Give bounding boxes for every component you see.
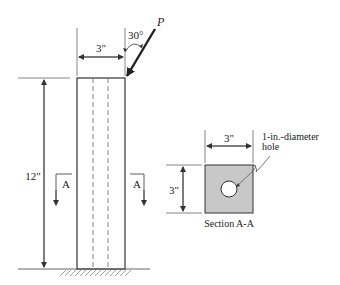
hole-label-line2: hole <box>262 141 280 152</box>
column <box>77 78 125 269</box>
angle-arc <box>125 44 142 52</box>
section-width-label: 3" <box>224 132 234 144</box>
section-a-a: 3" 3" 1-in.-diameter hole Section A-A <box>166 130 320 229</box>
column-diagram: 3" 12" A A P 30° 3" 3" <box>0 0 340 285</box>
column-width-dimension: 3" <box>77 28 125 76</box>
section-marker-right-label: A <box>133 178 141 190</box>
section-marker-right: A <box>130 174 144 205</box>
angle-label: 30° <box>128 29 143 41</box>
section-height-label: 3" <box>169 184 179 196</box>
hole-circle <box>221 181 237 197</box>
column-width-label: 3" <box>96 42 106 54</box>
section-marker-left: A <box>56 174 72 205</box>
load-p: P 30° <box>123 15 165 76</box>
ground-support <box>18 269 150 276</box>
load-label: P <box>156 15 165 29</box>
column-height-dimension: 12" <box>18 78 70 267</box>
section-marker-left-label: A <box>62 178 70 190</box>
section-title: Section A-A <box>204 218 254 229</box>
column-height-label: 12" <box>25 170 41 182</box>
